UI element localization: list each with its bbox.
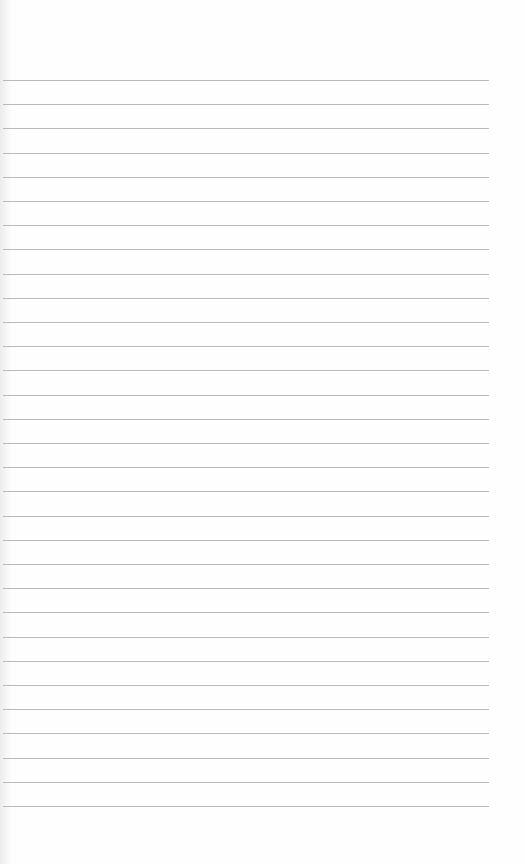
ruled-line <box>3 637 489 638</box>
ruled-line <box>3 782 489 783</box>
ruled-line <box>3 588 489 589</box>
ruled-line <box>3 661 489 662</box>
ruled-line <box>3 249 489 250</box>
ruled-line <box>3 758 489 759</box>
ruled-line <box>3 564 489 565</box>
ruled-line <box>3 395 489 396</box>
ruled-line <box>3 612 489 613</box>
ruled-line <box>3 419 489 420</box>
ruled-line <box>3 274 489 275</box>
ruled-line <box>3 370 489 371</box>
page-left-edge-shadow <box>0 0 12 864</box>
ruled-line <box>3 128 489 129</box>
ruled-line <box>3 104 489 105</box>
ruled-line <box>3 225 489 226</box>
ruled-line <box>3 685 489 686</box>
ruled-line <box>3 346 489 347</box>
lined-paper-page <box>0 0 525 864</box>
ruled-line <box>3 516 489 517</box>
ruled-line <box>3 80 489 81</box>
ruled-line <box>3 709 489 710</box>
ruled-line <box>3 177 489 178</box>
ruled-line <box>3 540 489 541</box>
ruled-line <box>3 467 489 468</box>
ruled-line <box>3 491 489 492</box>
ruled-line <box>3 153 489 154</box>
ruled-line <box>3 322 489 323</box>
ruled-line <box>3 298 489 299</box>
ruled-line <box>3 806 489 807</box>
ruled-line <box>3 201 489 202</box>
ruled-line <box>3 443 489 444</box>
ruled-line <box>3 733 489 734</box>
